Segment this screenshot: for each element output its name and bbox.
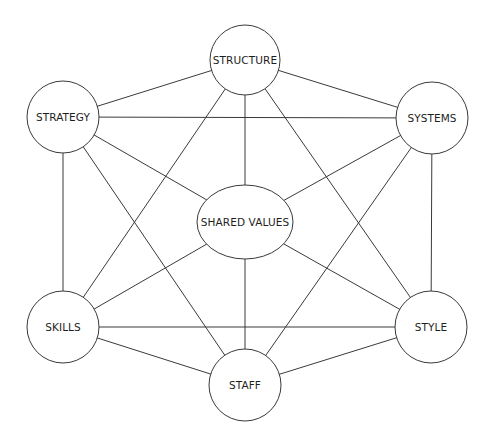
node-label: SHARED VALUES [201,216,290,228]
node-label: SYSTEMS [407,112,456,124]
node-label: SKILLS [45,321,81,333]
node-style: STYLE [395,291,467,363]
node-staff: STAFF [209,349,281,421]
node-label: STRATEGY [36,111,91,123]
seven-s-diagram: STRUCTURESTRATEGYSYSTEMSSHARED VALUESSKI… [0,0,492,439]
node-systems: SYSTEMS [396,82,468,154]
node-structure: STRUCTURE [210,25,280,95]
node-shared-values: SHARED VALUES [197,185,293,259]
node-skills: SKILLS [27,291,99,363]
node-label: STRUCTURE [213,54,277,66]
node-strategy: STRATEGY [27,81,99,153]
edge-strategy-systems [63,117,432,118]
framework-nodes: STRUCTURESTRATEGYSYSTEMSSHARED VALUESSKI… [27,25,468,421]
node-label: STAFF [229,379,261,391]
node-label: STYLE [415,321,447,333]
